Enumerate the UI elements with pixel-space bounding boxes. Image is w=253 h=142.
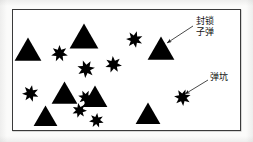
blocking-bullets-annotation-line-1: 封锁 bbox=[196, 16, 214, 27]
star-1 bbox=[51, 45, 68, 62]
triangle-3 bbox=[147, 36, 175, 60]
triangle-2 bbox=[69, 23, 99, 49]
star-2 bbox=[126, 31, 143, 48]
star-4 bbox=[105, 56, 122, 73]
blocking-bullets-annotation-line-2: 子弹 bbox=[196, 27, 214, 38]
crater-annotation: 弹坑 bbox=[210, 72, 228, 83]
diagram-figure: 封锁子弹 弹坑 bbox=[0, 0, 253, 142]
star-5 bbox=[22, 85, 39, 102]
crater-annotation-line-1: 弹坑 bbox=[210, 72, 228, 83]
triangle-4 bbox=[51, 81, 78, 104]
blocking-bullets-annotation: 封锁子弹 bbox=[196, 16, 214, 37]
star-7 bbox=[72, 103, 87, 118]
star-8 bbox=[89, 113, 104, 128]
star-9 bbox=[174, 89, 191, 106]
triangle-1 bbox=[14, 37, 42, 61]
star-3 bbox=[77, 60, 95, 78]
triangle-7 bbox=[135, 102, 161, 124]
triangle-6 bbox=[33, 105, 58, 127]
